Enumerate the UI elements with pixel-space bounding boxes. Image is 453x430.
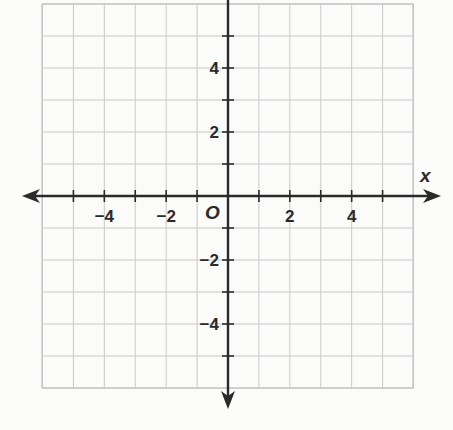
x-tick-label: −2 (156, 207, 175, 226)
y-tick-label: −4 (200, 315, 220, 334)
x-tick-label: −4 (95, 207, 115, 226)
y-tick-label: −2 (200, 251, 219, 270)
coordinate-plane: −4−22442−2−4 x O (0, 0, 453, 430)
x-axis-label: x (419, 165, 432, 186)
origin-label: O (205, 202, 220, 223)
y-tick-label: 2 (210, 123, 219, 142)
y-tick-label: 4 (210, 59, 220, 78)
x-tick-label: 4 (347, 207, 357, 226)
x-tick-label: 2 (285, 207, 294, 226)
